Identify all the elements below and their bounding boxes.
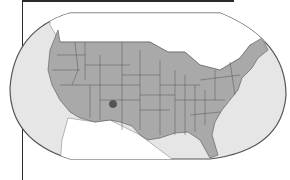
us-map: [0, 0, 290, 180]
location-marker-icon[interactable]: [109, 100, 116, 107]
